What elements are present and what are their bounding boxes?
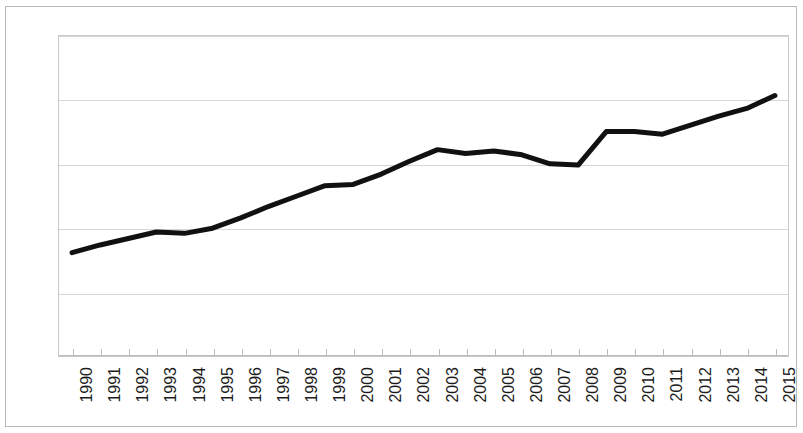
x-tick-mark <box>748 349 749 356</box>
x-tick-mark <box>720 349 721 356</box>
gridline-1 <box>59 229 788 230</box>
x-tick-label: 2013 <box>725 367 743 403</box>
x-tick-mark <box>635 349 636 356</box>
x-tick-label: 2003 <box>444 367 462 403</box>
x-tick-label: 2008 <box>584 367 602 403</box>
x-tick-label: 1995 <box>219 367 237 403</box>
x-tick-mark <box>663 349 664 356</box>
x-tick-label: 2014 <box>753 367 771 403</box>
gridline-1.5 <box>59 165 788 166</box>
gridline-2.5 <box>59 36 788 37</box>
x-tick-mark <box>186 349 187 356</box>
x-tick-mark <box>298 349 299 356</box>
x-tick-mark <box>551 349 552 356</box>
x-tick-mark <box>495 349 496 356</box>
x-tick-mark <box>326 349 327 356</box>
x-tick-mark <box>692 349 693 356</box>
x-tick-mark <box>523 349 524 356</box>
x-tick-label: 2002 <box>415 367 433 403</box>
x-tick-mark <box>157 349 158 356</box>
x-tick-mark <box>129 349 130 356</box>
x-axis-baseline <box>59 355 788 356</box>
x-tick-label: 1998 <box>303 367 321 403</box>
gridline-0.5 <box>59 294 788 295</box>
x-axis: 1990199119921993199419951996199719981999… <box>58 357 789 433</box>
x-tick-mark <box>410 349 411 356</box>
x-tick-label: 2004 <box>472 367 490 403</box>
x-tick-mark <box>579 349 580 356</box>
x-tick-mark <box>101 349 102 356</box>
x-tick-label: 1990 <box>78 367 96 403</box>
x-tick-label: 1999 <box>331 367 349 403</box>
x-tick-label: 1992 <box>134 367 152 403</box>
x-tick-label: 2009 <box>612 367 630 403</box>
x-tick-label: 2001 <box>387 367 405 403</box>
x-tick-mark <box>776 349 777 356</box>
x-tick-label: 1991 <box>106 367 124 403</box>
x-tick-mark <box>354 349 355 356</box>
x-tick-label: 2005 <box>500 367 518 403</box>
x-tick-mark <box>382 349 383 356</box>
x-tick-mark <box>242 349 243 356</box>
x-tick-label: 2015 <box>781 367 799 403</box>
x-tick-label: 2012 <box>697 367 715 403</box>
x-tick-mark <box>467 349 468 356</box>
gridline-2 <box>59 100 788 101</box>
x-tick-label: 1996 <box>247 367 265 403</box>
x-tick-label: 2007 <box>556 367 574 403</box>
x-tick-label: 2000 <box>359 367 377 403</box>
x-tick-mark <box>607 349 608 356</box>
x-tick-mark <box>214 349 215 356</box>
x-tick-label: 1993 <box>162 367 180 403</box>
x-tick-label: 2011 <box>668 367 686 401</box>
x-tick-label: 2010 <box>640 367 658 403</box>
x-tick-mark <box>270 349 271 356</box>
x-tick-mark <box>73 349 74 356</box>
x-tick-label: 1997 <box>275 367 293 403</box>
x-tick-label: 2006 <box>528 367 546 403</box>
x-tick-label: 1994 <box>191 367 209 403</box>
plot-area <box>58 35 789 357</box>
chart-figure: 00.511.522.5 199019911992199319941995199… <box>0 0 803 433</box>
x-tick-mark <box>439 349 440 356</box>
